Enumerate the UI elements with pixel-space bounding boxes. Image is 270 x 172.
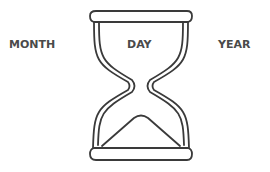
year-label: YEAR [218, 38, 250, 51]
hourglass-diagram: MONTH DAY YEAR [0, 0, 270, 172]
hourglass-icon [0, 0, 270, 172]
top-cap [90, 11, 192, 22]
month-label: MONTH [9, 38, 55, 51]
bottom-cap [90, 148, 192, 160]
day-label: DAY [127, 38, 152, 51]
